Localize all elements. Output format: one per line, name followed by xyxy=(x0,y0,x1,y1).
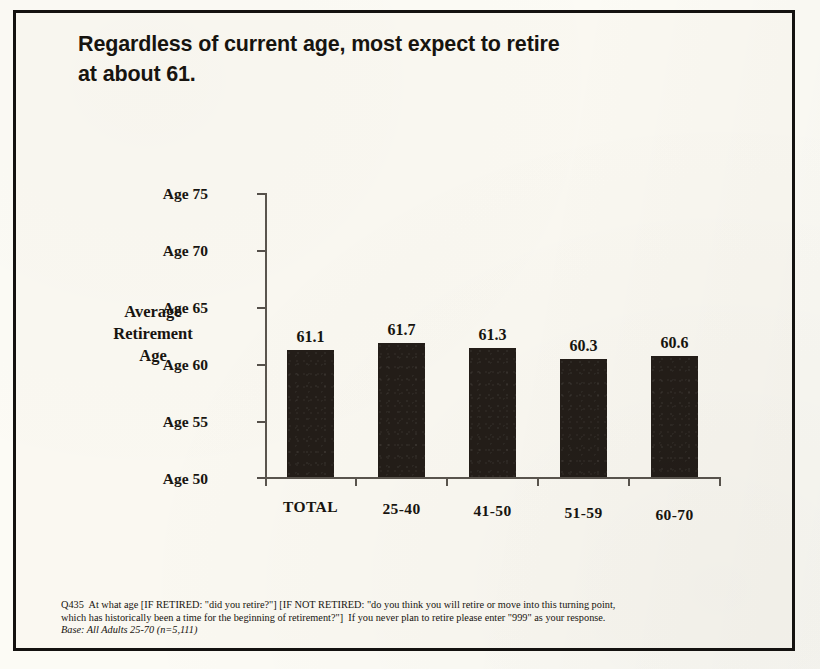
y-tick-mark-65 xyxy=(257,307,265,309)
footnote-base: Base: All Adults 25-70 (n=5,111) xyxy=(61,624,761,637)
y-tick-mark-60 xyxy=(257,364,265,366)
bar-value-41-50: 61.3 xyxy=(457,326,528,344)
bar-value-51-59: 60.3 xyxy=(548,337,619,355)
x-category-label-total: TOTAL xyxy=(268,498,353,516)
y-tick-label-65: Age 65 xyxy=(128,299,208,317)
x-tick-mark-1 xyxy=(355,477,357,486)
x-category-label-60-70: 60-70 xyxy=(632,506,717,524)
y-tick-mark-70 xyxy=(257,250,265,252)
y-tick-mark-75 xyxy=(257,193,265,195)
bar-41-50 xyxy=(469,348,516,477)
x-category-label-41-50: 41-50 xyxy=(450,502,535,520)
bar-total xyxy=(287,350,334,477)
bar-51-59 xyxy=(560,359,607,477)
slide-frame: Regardless of current age, most expect t… xyxy=(13,10,795,651)
footnote-line-2: which has historically been a time for t… xyxy=(61,612,761,625)
x-tick-mark-2 xyxy=(446,477,448,486)
y-tick-label-55: Age 55 xyxy=(128,413,208,431)
footnote-line-1: Q435 At what age [IF RETIRED: "did you r… xyxy=(61,599,761,612)
y-tick-label-60: Age 60 xyxy=(128,356,208,374)
bar-value-total: 61.1 xyxy=(275,328,346,346)
bar-chart: Average Retirement Age Age 75 Age 70 Age… xyxy=(16,13,798,654)
page-canvas: Regardless of current age, most expect t… xyxy=(0,0,820,669)
footnote: Q435 At what age [IF RETIRED: "did you r… xyxy=(61,599,761,637)
y-tick-label-50: Age 50 xyxy=(128,470,208,488)
x-category-label-51-59: 51-59 xyxy=(541,504,626,522)
y-tick-label-75: Age 75 xyxy=(128,185,208,203)
x-tick-mark-4 xyxy=(628,477,630,486)
bar-value-25-40: 61.7 xyxy=(366,321,437,339)
bar-60-70 xyxy=(651,356,698,477)
y-axis-title-line-2: Retirement xyxy=(94,323,212,345)
x-tick-mark-3 xyxy=(537,477,539,486)
y-tick-label-70: Age 70 xyxy=(128,242,208,260)
x-tick-mark-0 xyxy=(265,477,267,486)
x-tick-mark-5 xyxy=(719,477,721,486)
bar-25-40 xyxy=(378,343,425,477)
y-axis-line xyxy=(265,193,267,478)
bar-value-60-70: 60.6 xyxy=(639,334,710,352)
x-category-label-25-40: 25-40 xyxy=(359,500,444,518)
x-axis-line xyxy=(265,477,720,479)
y-tick-mark-50 xyxy=(257,477,265,479)
y-tick-mark-55 xyxy=(257,421,265,423)
